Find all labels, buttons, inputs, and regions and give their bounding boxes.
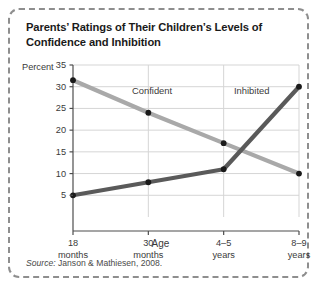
source-word: Source:: [26, 258, 56, 268]
data-point-inhibited-2: [221, 166, 227, 172]
y-tick-label: 25: [44, 103, 66, 113]
data-point-confident-2: [221, 140, 227, 146]
source-note: Source: Janson & Mathiesen, 2008.: [26, 258, 162, 268]
y-tick-label: 35: [44, 60, 66, 70]
data-point-confident-3: [296, 171, 302, 177]
x-axis-title: Age: [10, 238, 311, 249]
data-point-confident-0: [70, 77, 76, 83]
y-tick-label: 10: [44, 169, 66, 179]
series-label-inhibited: Inhibited: [234, 85, 269, 96]
data-point-inhibited-1: [145, 179, 151, 185]
series-line-inhibited: [73, 87, 299, 196]
series-lines: [73, 80, 299, 195]
series-label-confident: Confident: [132, 85, 172, 96]
data-point-confident-1: [145, 110, 151, 116]
data-point-inhibited-3: [296, 84, 302, 90]
source-citation: Janson & Mathiesen, 2008.: [56, 258, 163, 268]
y-tick-label: 5: [44, 190, 66, 200]
y-tick-label: 15: [44, 147, 66, 157]
x-tick-label-line: years: [191, 250, 257, 262]
y-tick-label: 20: [44, 125, 66, 135]
y-tick-label: 30: [44, 82, 66, 92]
x-tick-label-line: years: [266, 250, 325, 262]
figure-card: Parents’ Ratings of Their Children’s Lev…: [8, 8, 309, 278]
